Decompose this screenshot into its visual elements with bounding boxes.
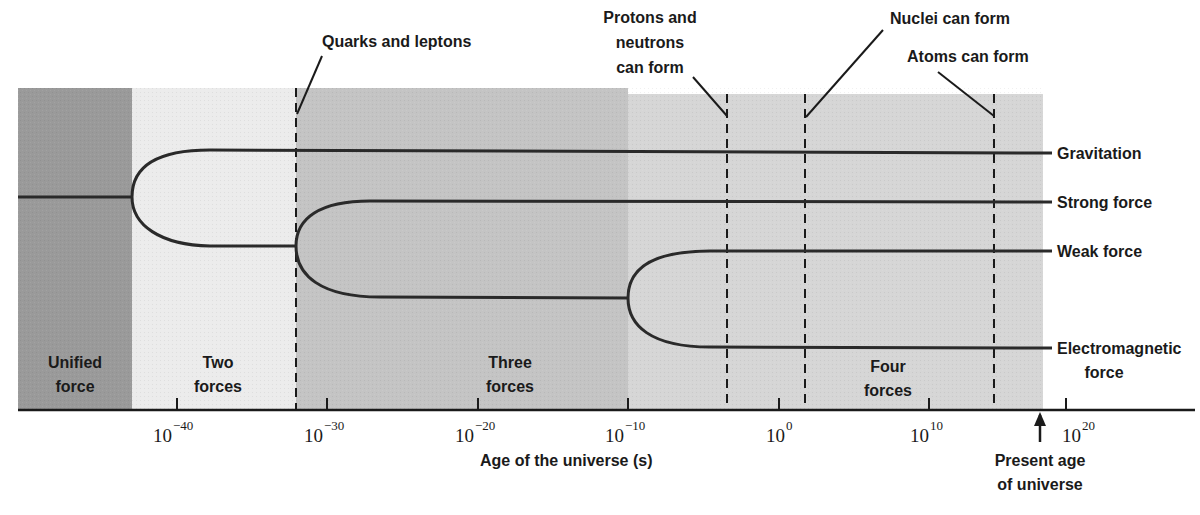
- tick-labels: 10 −40 10 −30 10 −20 10 −10 10 0 10 10 1…: [153, 418, 1095, 446]
- tick-exp: 0: [786, 418, 793, 433]
- region-label-two: Two: [203, 354, 234, 371]
- tick-exp: 20: [1082, 418, 1095, 433]
- present-age-label: Present age: [995, 452, 1086, 469]
- label-gravitation: Gravitation: [1057, 145, 1141, 162]
- event-protons-line1: Protons and: [603, 9, 696, 26]
- region-label-unified-2: force: [55, 378, 94, 395]
- tick-exp: −20: [475, 418, 495, 433]
- region-label-three: Three: [488, 354, 532, 371]
- region-label-four: Four: [870, 358, 906, 375]
- region-label-two-2: forces: [194, 378, 242, 395]
- present-age-label-2: of universe: [997, 476, 1082, 493]
- tick-label: 10: [605, 425, 624, 446]
- region-label-four-2: forces: [864, 382, 912, 399]
- tick-exp: −30: [324, 418, 344, 433]
- label-weak-force: Weak force: [1057, 243, 1142, 260]
- x-axis-label: Age of the universe (s): [480, 452, 652, 469]
- tick-exp: −40: [173, 418, 193, 433]
- region-label-unified: Unified: [48, 354, 102, 371]
- label-electromagnetic: Electromagnetic: [1057, 340, 1182, 357]
- event-protons-line3: can form: [616, 59, 684, 76]
- tick-exp: −10: [625, 418, 645, 433]
- tick-label: 10: [1062, 425, 1081, 446]
- present-age-arrow-icon: [1034, 412, 1046, 442]
- tick-label: 10: [304, 425, 323, 446]
- label-strong-force: Strong force: [1057, 194, 1152, 211]
- label-electromagnetic-force: force: [1084, 364, 1123, 381]
- tick-label: 10: [153, 425, 172, 446]
- tick-label: 10: [766, 425, 785, 446]
- event-nuclei: Nuclei can form: [890, 10, 1010, 27]
- event-quarks-leptons: Quarks and leptons: [322, 33, 471, 50]
- tick-exp: 10: [930, 418, 943, 433]
- region-label-three-2: forces: [486, 378, 534, 395]
- force-unification-diagram: Gravitation Strong force Weak force Elec…: [0, 0, 1200, 515]
- tick-label: 10: [910, 425, 929, 446]
- event-protons-line2: neutrons: [616, 34, 685, 51]
- tick-label: 10: [455, 425, 474, 446]
- event-atoms: Atoms can form: [907, 48, 1029, 65]
